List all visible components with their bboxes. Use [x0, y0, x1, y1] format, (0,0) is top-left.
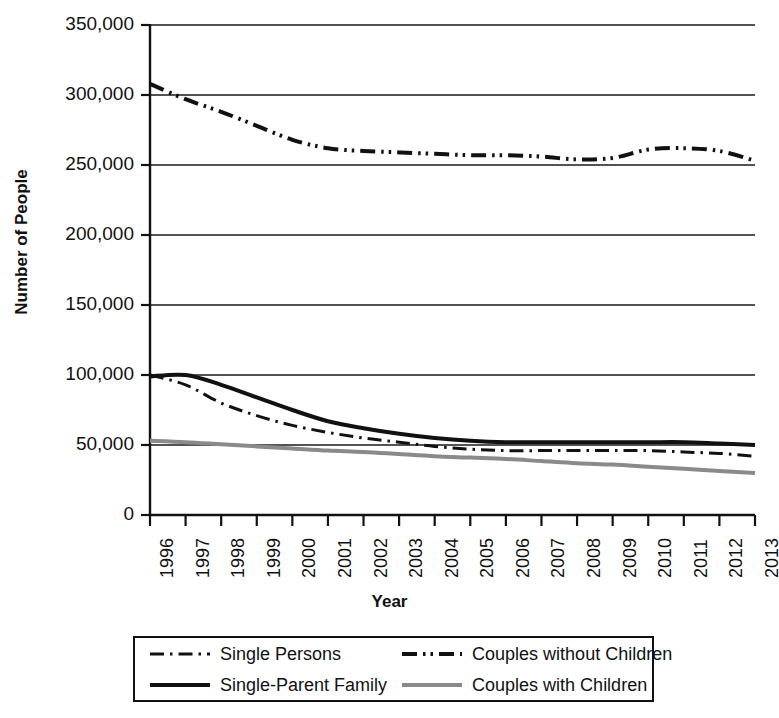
gridlines — [150, 25, 755, 445]
x-tick-label: 2001 — [335, 538, 356, 578]
solid-swatch — [149, 678, 211, 692]
data-series-group — [150, 84, 755, 473]
y-tick-label: 250,000 — [16, 154, 134, 173]
y-tick-label: 0 — [16, 504, 134, 523]
legend-item-single-parent-family[interactable]: Single-Parent Family — [135, 676, 387, 694]
y-tick-label: 300,000 — [16, 84, 134, 103]
x-tick-label: 2002 — [371, 538, 392, 578]
x-tick-label: 2006 — [513, 538, 534, 578]
x-tick-label: 1996 — [157, 538, 178, 578]
x-tick-label: 2004 — [442, 538, 463, 578]
solid-gray-swatch — [401, 678, 463, 692]
y-tick-label: 50,000 — [16, 434, 134, 453]
legend-label: Couples without Children — [472, 645, 672, 663]
x-tick-label: 2009 — [620, 538, 641, 578]
x-tick-label: 2010 — [655, 538, 676, 578]
x-tick-label: 2011 — [691, 539, 712, 578]
y-tick-label: 200,000 — [16, 224, 134, 243]
legend-label: Couples with Children — [472, 676, 647, 694]
legend-item-single-persons[interactable]: Single Persons — [135, 645, 387, 663]
x-tick-label: 2012 — [726, 538, 747, 578]
legend-label: Single Persons — [220, 645, 341, 663]
y-tick-label: 150,000 — [16, 294, 134, 313]
chart-legend: Single PersonsCouples without ChildrenSi… — [133, 636, 654, 702]
x-tick-label: 2008 — [584, 538, 605, 578]
x-axis-title: Year — [0, 592, 779, 612]
x-tick-label: 1997 — [193, 538, 214, 578]
x-tick-label: 2013 — [762, 538, 779, 578]
dash-dot-swatch — [149, 647, 211, 661]
x-tick-label: 2005 — [477, 538, 498, 578]
y-tick-label: 100,000 — [16, 364, 134, 383]
legend-item-couples-without-children[interactable]: Couples without Children — [387, 645, 672, 663]
chart-figure: Number of People 350,000300,000250,00020… — [0, 0, 779, 718]
x-tick-label: 1999 — [264, 538, 285, 578]
x-tick-label: 2000 — [299, 538, 320, 578]
legend-item-couples-with-children[interactable]: Couples with Children — [387, 676, 672, 694]
x-tick-label: 2003 — [406, 538, 427, 578]
x-tick-label: 1998 — [228, 538, 249, 578]
y-tick-label: 350,000 — [16, 14, 134, 33]
legend-label: Single-Parent Family — [220, 676, 387, 694]
x-tick-label: 2007 — [548, 538, 569, 578]
dash-dot-dot-swatch — [401, 647, 463, 661]
